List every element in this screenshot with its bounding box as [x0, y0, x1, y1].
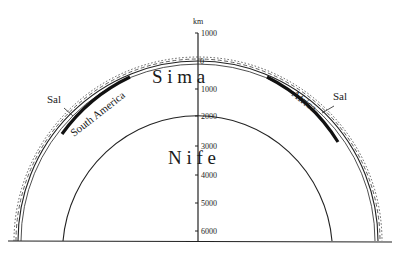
svg-text:0: 0 — [200, 57, 204, 66]
svg-text:4000: 4000 — [201, 171, 217, 180]
baseline — [8, 241, 392, 242]
svg-text:2000: 2000 — [201, 112, 217, 121]
earth-cross-section-diagram: km 1000 0 1000 2000 3000 4000 5000 6000 … — [0, 0, 394, 254]
sal-right-label: Sal — [333, 90, 347, 102]
sima-label: S i m a — [152, 66, 206, 87]
svg-text:1000: 1000 — [201, 29, 217, 38]
axis-unit-label: km — [193, 17, 204, 26]
svg-text:5000: 5000 — [201, 199, 217, 208]
sal-left-label: Sal — [47, 93, 61, 105]
sal-left-leader — [64, 108, 73, 116]
svg-text:6000: 6000 — [201, 227, 217, 236]
nife-label: N i f e — [168, 147, 216, 168]
